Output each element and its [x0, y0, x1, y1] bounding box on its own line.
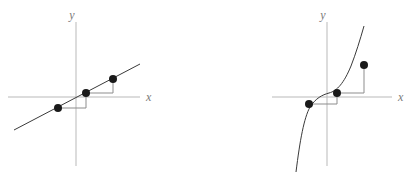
panel-linear-function: y x	[0, 0, 209, 179]
data-point	[54, 104, 62, 112]
slope-comparison-figure: y x y x	[0, 0, 418, 179]
slope-staircase-right	[309, 65, 364, 104]
y-axis-label-right: y	[319, 8, 326, 22]
axes-right	[272, 22, 392, 166]
data-point	[360, 61, 368, 69]
data-point	[305, 100, 313, 108]
x-axis-label-left: x	[145, 90, 152, 104]
x-axis-label-right: x	[397, 90, 404, 104]
data-point	[333, 89, 341, 97]
axes-left	[8, 22, 140, 166]
data-point	[109, 75, 117, 83]
cubic-function-curve	[296, 26, 364, 172]
panel-cubic-function: y x	[209, 0, 418, 179]
y-axis-label-left: y	[68, 8, 75, 22]
data-point	[82, 89, 90, 97]
